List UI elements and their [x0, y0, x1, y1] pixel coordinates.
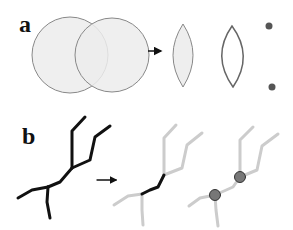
intersection-point-bottom	[269, 84, 276, 91]
panel-a	[32, 17, 276, 93]
filled-lens	[173, 24, 193, 87]
junction-node-lower	[210, 190, 221, 201]
highlighted-edge	[142, 175, 164, 194]
right-circle	[75, 18, 149, 92]
panel-b	[18, 117, 278, 226]
diagram-canvas	[0, 0, 293, 230]
junction-node-upper	[235, 172, 246, 183]
tree-with-nodes	[189, 127, 278, 226]
intersection-point-top	[266, 23, 273, 30]
outlined-lens	[222, 26, 244, 87]
tree-black	[18, 117, 110, 218]
tree-highlighted-edge	[114, 125, 202, 225]
